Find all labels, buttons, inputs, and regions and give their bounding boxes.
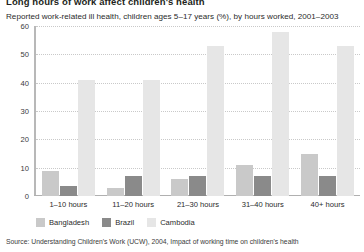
- chart-figure: Long hours of work affect children's hea…: [0, 0, 364, 252]
- bar-bangladesh-4: [301, 154, 318, 197]
- bar-cambodia-2: [207, 46, 224, 196]
- legend-swatch-cambodia: [147, 218, 156, 227]
- bar-bangladesh-3: [236, 165, 253, 196]
- y-axis-tick-0: 0: [25, 192, 29, 201]
- bar-cambodia-1: [143, 80, 160, 196]
- bar-bangladesh-0: [42, 171, 59, 197]
- y-axis-tick-40: 40: [21, 78, 29, 87]
- legend-item-bangladesh[interactable]: Bangladesh: [36, 218, 89, 227]
- bar-bangladesh-2: [171, 179, 188, 196]
- legend-label-cambodia: Cambodia: [160, 218, 195, 227]
- legend-item-brazil[interactable]: Brazil: [102, 218, 134, 227]
- x-axis-category-labels: 1–10 hours11–20 hours21–30 hours31–40 ho…: [36, 200, 360, 209]
- x-axis-label-2: 21–30 hours: [166, 200, 231, 209]
- bar-group: [101, 26, 166, 196]
- y-axis-tick-60: 60: [21, 22, 29, 31]
- bar-group: [230, 26, 295, 196]
- bar-cambodia-4: [337, 46, 354, 196]
- bar-brazil-3: [254, 176, 271, 196]
- legend-item-cambodia[interactable]: Cambodia: [147, 218, 195, 227]
- legend-label-bangladesh: Bangladesh: [49, 218, 89, 227]
- bar-cambodia-3: [272, 32, 289, 196]
- bar-brazil-0: [60, 186, 77, 196]
- y-axis-tick-20: 20: [21, 135, 29, 144]
- y-axis-tick-50: 50: [21, 50, 29, 59]
- x-axis-label-0: 1–10 hours: [36, 200, 101, 209]
- legend-swatch-bangladesh: [36, 218, 45, 227]
- bar-brazil-1: [125, 176, 142, 196]
- y-axis-tick-30: 30: [21, 107, 29, 116]
- bar-group: [36, 26, 101, 196]
- y-axis-tick-labels: 0102030405060: [0, 26, 33, 196]
- plot-area: 0102030405060: [0, 26, 364, 198]
- y-axis-tick-10: 10: [21, 163, 29, 172]
- chart-subtitle: Reported work-related ill health, childr…: [6, 12, 338, 21]
- bar-cambodia-0: [78, 80, 95, 196]
- legend-label-brazil: Brazil: [115, 218, 134, 227]
- legend-swatch-brazil: [102, 218, 111, 227]
- bar-brazil-4: [319, 176, 336, 196]
- bars-area: [36, 26, 360, 196]
- bar-brazil-2: [189, 176, 206, 196]
- bar-bangladesh-1: [107, 188, 124, 197]
- x-axis-label-1: 11–20 hours: [101, 200, 166, 209]
- bar-group: [295, 26, 360, 196]
- chart-title: Long hours of work affect children's hea…: [6, 0, 205, 7]
- bar-group: [166, 26, 231, 196]
- x-axis-label-3: 31–40 hours: [230, 200, 295, 209]
- chart-source: Source: Understanding Children's Work (U…: [6, 238, 299, 245]
- x-axis-label-4: 40+ hours: [295, 200, 360, 209]
- chart-legend: BangladeshBrazilCambodia: [36, 218, 195, 227]
